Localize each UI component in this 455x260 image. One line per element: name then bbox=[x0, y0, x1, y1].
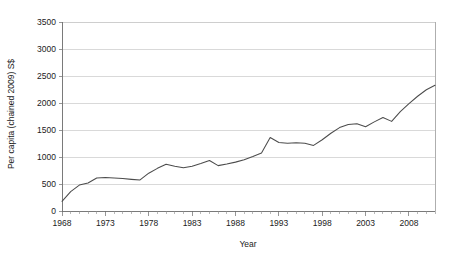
x-tick-label: 1968 bbox=[53, 218, 72, 228]
y-tick-label: 2000 bbox=[37, 98, 56, 108]
x-tick-label: 1998 bbox=[313, 218, 332, 228]
x-tick-label: 1978 bbox=[139, 218, 158, 228]
x-tick-label: 1973 bbox=[96, 218, 115, 228]
x-tick-label: 1988 bbox=[226, 218, 245, 228]
x-tick-label: 1993 bbox=[269, 218, 288, 228]
line-chart: 0500100015002000250030003500 19681973197… bbox=[0, 0, 455, 260]
y-tick-label: 1000 bbox=[37, 152, 56, 162]
y-tick-label: 500 bbox=[42, 179, 56, 189]
x-axis-title: Year bbox=[239, 239, 256, 249]
y-tick-label: 3500 bbox=[37, 17, 56, 27]
x-tick-label: 1983 bbox=[183, 218, 202, 228]
x-axis-tick-labels: 196819731978198319881993199820032008 bbox=[53, 218, 419, 228]
y-tick-label: 1500 bbox=[37, 125, 56, 135]
x-tick-label: 2008 bbox=[400, 218, 419, 228]
y-tick-label: 0 bbox=[51, 206, 56, 216]
chart-container: 0500100015002000250030003500 19681973197… bbox=[0, 0, 455, 260]
y-axis-title: Per capita (chained 2009) S$ bbox=[6, 59, 16, 169]
y-tick-label: 2500 bbox=[37, 71, 56, 81]
y-tick-label: 3000 bbox=[37, 44, 56, 54]
x-tick-label: 2003 bbox=[356, 218, 375, 228]
